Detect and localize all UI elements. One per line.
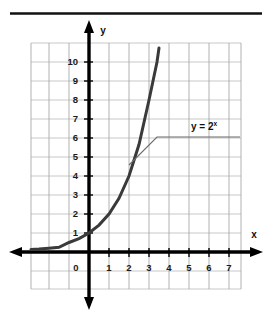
- y-tick-label-7: 7: [73, 113, 78, 124]
- exponential-graph-figure: 1 2 3 4 5 6 7 8 9 10 0 1 2 3 4 5 6 7 y x: [0, 0, 272, 319]
- y-tick-label-1: 1: [73, 227, 79, 238]
- equation-label-exponent: x: [214, 120, 218, 127]
- x-tick-label-1: 1: [106, 262, 112, 273]
- equation-label-base: y = 2: [191, 121, 214, 132]
- y-tick-label-5: 5: [73, 151, 79, 162]
- x-tick-label-4: 4: [166, 262, 172, 273]
- x-tick-label-3: 3: [146, 262, 151, 273]
- x-tick-label-7: 7: [226, 262, 231, 273]
- y-tick-label-4: 4: [73, 170, 79, 181]
- y-axis-name: y: [100, 25, 106, 36]
- graph-svg: 1 2 3 4 5 6 7 8 9 10 0 1 2 3 4 5 6 7 y x: [0, 0, 272, 319]
- y-tick-label-2: 2: [73, 208, 78, 219]
- x-axis-name: x: [251, 229, 257, 240]
- x-tick-label-6: 6: [206, 262, 211, 273]
- y-tick-label-10: 10: [67, 56, 78, 67]
- x-tick-label-5: 5: [186, 262, 192, 273]
- y-tick-label-3: 3: [73, 189, 78, 200]
- y-tick-label-8: 8: [73, 94, 78, 105]
- y-tick-label-6: 6: [73, 132, 78, 143]
- x-tick-label-2: 2: [126, 262, 131, 273]
- y-tick-label-9: 9: [73, 75, 78, 86]
- x-tick-label-0: 0: [73, 262, 78, 273]
